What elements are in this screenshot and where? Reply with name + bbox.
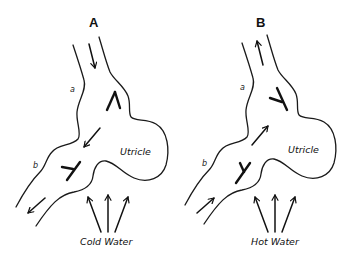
panel-a-stimulus-label: Cold Water [80,236,133,247]
panel-a-canal-label-a: a [70,85,75,94]
panel-a-flow-arrow-middle [84,128,100,147]
panel-a-title: A [89,15,99,30]
panel-b-canal-label-b: b [202,159,207,168]
panel-b-canal-label-a: a [240,83,245,92]
panel-a-canal-outer-wall [36,37,168,226]
panel-b-title: B [256,15,265,30]
panel-b-cupula-upper [270,88,287,110]
panel-b-stimulus-label: Hot Water [251,236,300,247]
panel-b-flow-arrow-middle [252,126,268,145]
panel-a-cupula-upper [107,92,120,110]
panel-a-flow-arrow-bottom [28,198,45,213]
panel-a-canal-inner-wall [16,45,85,207]
panel-b-utricle-label: Utricle [288,144,319,155]
panel-b: B a b Utricle Hot Water [185,15,336,247]
panel-b-flow-arrow-bottom [197,198,214,213]
panel-a-stimulus-arrows [88,195,128,232]
panel-b-canal-inner-wall [185,43,254,205]
panel-a-flow-arrow-top [89,44,95,68]
panel-a-canal-label-b: b [33,161,38,170]
panel-b-cupula-lower [236,163,250,183]
panel-b-canal-outer-wall [204,35,336,224]
panel-b-flow-arrow-top [257,41,263,65]
panel-b-stimulus-arrows [255,195,295,232]
panel-a-utricle-label: Utricle [120,146,151,157]
panel-a: A a b Utricle Cold Water [16,15,168,247]
panel-a-cupula-lower [62,162,80,180]
caloric-stimulation-diagram: A a b Utricle Cold Water B [0,0,349,258]
